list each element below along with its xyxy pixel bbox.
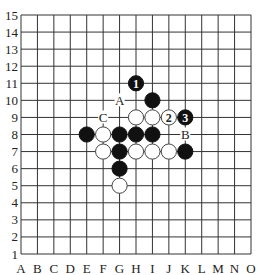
column-label-n: N (228, 262, 242, 275)
column-label-f: F (96, 262, 110, 275)
column-label-c: C (47, 262, 61, 275)
black-stone-i10 (145, 93, 160, 108)
black-stone-g8 (112, 127, 127, 142)
white-stone-f7 (96, 144, 111, 159)
row-label-7: 7 (0, 145, 18, 158)
black-stone-h8 (128, 127, 143, 142)
row-label-5: 5 (0, 179, 18, 192)
row-label-4: 4 (0, 196, 18, 209)
row-label-8: 8 (0, 128, 18, 141)
column-label-j: J (162, 262, 176, 275)
black-stone-i8 (145, 127, 160, 142)
black-stone-k9: 3 (178, 110, 193, 125)
column-label-o: O (244, 262, 258, 275)
white-stone-f8 (96, 127, 111, 142)
board-grid: ABC123 (0, 0, 259, 275)
svg-text:A: A (115, 93, 125, 108)
row-label-2: 2 (0, 230, 18, 243)
white-stone-i7 (145, 144, 160, 159)
white-stone-h7 (128, 144, 143, 159)
move-number: 3 (182, 111, 188, 125)
move-number: 2 (166, 111, 172, 125)
row-label-13: 13 (0, 43, 18, 56)
column-label-h: H (129, 262, 143, 275)
svg-text:B: B (181, 127, 190, 142)
move-number: 1 (133, 77, 139, 91)
row-label-11: 11 (0, 77, 18, 90)
column-label-e: E (80, 262, 94, 275)
column-label-l: L (195, 262, 209, 275)
svg-text:C: C (99, 110, 108, 125)
row-label-3: 3 (0, 213, 18, 226)
row-label-1: 1 (0, 248, 18, 261)
row-label-15: 15 (0, 9, 18, 22)
column-label-a: A (14, 262, 28, 275)
marker-c: C (98, 110, 108, 125)
white-stone-j7 (161, 144, 176, 159)
row-label-10: 10 (0, 94, 18, 107)
marker-a: A (115, 93, 125, 108)
column-label-k: K (178, 262, 192, 275)
row-label-9: 9 (0, 111, 18, 124)
white-stone-j9: 2 (161, 110, 176, 125)
black-stone-g6 (112, 161, 127, 176)
column-label-m: M (211, 262, 225, 275)
column-label-d: D (63, 262, 77, 275)
column-label-g: G (113, 262, 127, 275)
black-stone-e8 (79, 127, 94, 142)
column-label-b: B (30, 262, 44, 275)
gomoku-board: ABC123 123456789101112131415 ABCDEFGHIJK… (0, 0, 259, 275)
marker-b: B (180, 127, 190, 142)
white-stone-g5 (112, 178, 127, 193)
black-stone-h11: 1 (128, 76, 143, 91)
black-stone-k7 (178, 144, 193, 159)
row-label-14: 14 (0, 26, 18, 39)
column-label-i: I (145, 262, 159, 275)
white-stone-i9 (145, 110, 160, 125)
row-label-12: 12 (0, 60, 18, 73)
white-stone-h9 (128, 110, 143, 125)
row-label-6: 6 (0, 162, 18, 175)
black-stone-g7 (112, 144, 127, 159)
